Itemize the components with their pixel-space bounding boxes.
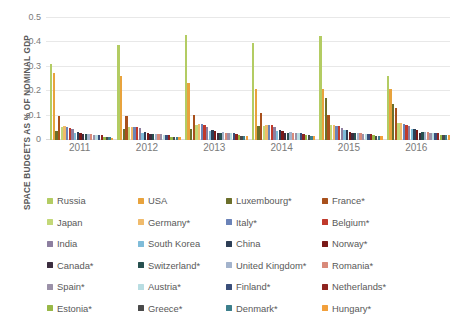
- legend-swatch-icon: [138, 305, 144, 311]
- bar-group: [315, 18, 382, 140]
- y-axis-tick-label: 0.2: [28, 85, 41, 95]
- legend-swatch-icon: [226, 262, 232, 268]
- legend-swatch-icon: [322, 219, 328, 225]
- legend-swatch-icon: [226, 241, 232, 247]
- y-axis-tick-label: 0.4: [28, 36, 41, 46]
- legend-swatch-icon: [138, 241, 144, 247]
- legend-label: Belgium*: [332, 218, 370, 227]
- legend-label: Russia: [57, 196, 86, 205]
- legend-label: Germany*: [148, 218, 190, 227]
- bars: [113, 18, 180, 140]
- legend-swatch-icon: [226, 284, 232, 290]
- y-axis-tick-label: 0.5: [28, 12, 41, 22]
- legend-item[interactable]: Estonia*: [47, 304, 138, 313]
- legend-swatch-icon: [47, 219, 53, 225]
- legend-label: Spain*: [57, 282, 85, 291]
- legend-label: Denmark*: [236, 304, 278, 313]
- legend-item[interactable]: Luxembourg*: [226, 196, 322, 205]
- bars: [46, 18, 113, 140]
- legend-label: Norway*: [332, 239, 367, 248]
- legend-swatch-icon: [322, 262, 328, 268]
- legend-label: United Kingdom*: [236, 261, 306, 270]
- legend-item[interactable]: Russia: [47, 196, 138, 205]
- legend-swatch-icon: [322, 198, 328, 204]
- legend-swatch-icon: [47, 241, 53, 247]
- x-axis-tick-label: 2014: [248, 142, 315, 153]
- legend-item[interactable]: China: [226, 239, 322, 248]
- legend-item[interactable]: Hungary*: [322, 304, 427, 313]
- bars: [383, 18, 450, 140]
- legend-item[interactable]: Switzerland*: [138, 261, 226, 270]
- y-axis-tick-label: 0.3: [28, 61, 41, 71]
- x-axis-labels: 201120122013201420152016: [46, 142, 450, 153]
- bar-group: [383, 18, 450, 140]
- legend-swatch-icon: [226, 305, 232, 311]
- legend-item[interactable]: Greece*: [138, 304, 226, 313]
- chart-container: SPACE BUDGETS AS % OF NOMINAL GDP 00.10.…: [0, 0, 455, 322]
- legend-item[interactable]: Austria*: [138, 282, 226, 291]
- bar-groups: [46, 18, 450, 140]
- y-axis-tick-label: 0: [36, 134, 41, 144]
- legend-label: Switzerland*: [148, 261, 200, 270]
- legend-label: Hungary*: [332, 304, 371, 313]
- bar-group: [46, 18, 113, 140]
- legend-label: Romania*: [332, 261, 373, 270]
- legend-label: China: [236, 239, 261, 248]
- legend-label: Estonia*: [57, 304, 92, 313]
- legend-swatch-icon: [322, 241, 328, 247]
- legend-label: Luxembourg*: [236, 196, 292, 205]
- bar-group: [113, 18, 180, 140]
- bar[interactable]: [448, 135, 450, 140]
- legend-label: Japan: [57, 218, 83, 227]
- legend-swatch-icon: [322, 305, 328, 311]
- x-axis-tick-label: 2011: [46, 142, 113, 153]
- bar-group: [248, 18, 315, 140]
- legend-item[interactable]: Romania*: [322, 261, 427, 270]
- legend-label: Finland*: [236, 282, 270, 291]
- legend-item[interactable]: United Kingdom*: [226, 261, 322, 270]
- legend-item[interactable]: Spain*: [47, 282, 138, 291]
- chart-legend: RussiaUSALuxembourg*France*JapanGermany*…: [47, 190, 447, 319]
- legend-item[interactable]: Denmark*: [226, 304, 322, 313]
- legend-label: Canada*: [57, 261, 94, 270]
- plot-area: 00.10.20.30.40.5: [46, 18, 450, 140]
- bar[interactable]: [53, 73, 55, 140]
- legend-item[interactable]: Italy*: [226, 218, 322, 227]
- legend-item[interactable]: Netherlands*: [322, 282, 427, 291]
- x-axis-tick-label: 2016: [383, 142, 450, 153]
- x-axis-tick-label: 2013: [181, 142, 248, 153]
- legend-swatch-icon: [47, 305, 53, 311]
- y-axis-tick-label: 0.1: [28, 110, 41, 120]
- legend-swatch-icon: [138, 198, 144, 204]
- legend-item[interactable]: Norway*: [322, 239, 427, 248]
- legend-item[interactable]: Belgium*: [322, 218, 427, 227]
- legend-swatch-icon: [138, 284, 144, 290]
- legend-label: Italy*: [236, 218, 257, 227]
- legend-swatch-icon: [226, 198, 232, 204]
- legend-swatch-icon: [47, 198, 53, 204]
- legend-item[interactable]: USA: [138, 196, 226, 205]
- legend-item[interactable]: France*: [322, 196, 427, 205]
- legend-label: Greece*: [148, 304, 182, 313]
- legend-item[interactable]: Canada*: [47, 261, 138, 270]
- legend-swatch-icon: [322, 284, 328, 290]
- legend-swatch-icon: [138, 219, 144, 225]
- bars: [315, 18, 382, 140]
- legend-item[interactable]: South Korea: [138, 239, 226, 248]
- x-axis-tick-label: 2015: [315, 142, 382, 153]
- legend-swatch-icon: [226, 219, 232, 225]
- legend-swatch-icon: [138, 262, 144, 268]
- bars: [181, 18, 248, 140]
- legend-item[interactable]: India: [47, 239, 138, 248]
- legend-item[interactable]: Germany*: [138, 218, 226, 227]
- legend-label: India: [57, 239, 77, 248]
- legend-label: France*: [332, 196, 365, 205]
- x-axis-tick-label: 2012: [113, 142, 180, 153]
- legend-item[interactable]: Japan: [47, 218, 138, 227]
- legend-swatch-icon: [47, 262, 53, 268]
- legend-label: USA: [148, 196, 167, 205]
- bar-group: [181, 18, 248, 140]
- legend-label: Austria*: [148, 282, 181, 291]
- bars: [248, 18, 315, 140]
- legend-item[interactable]: Finland*: [226, 282, 322, 291]
